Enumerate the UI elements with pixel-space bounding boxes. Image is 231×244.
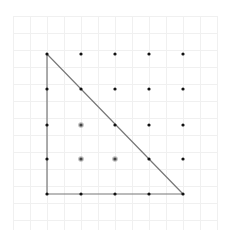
lattice-point xyxy=(147,157,150,160)
lattice-point xyxy=(45,87,48,90)
lattice-point xyxy=(181,157,184,160)
interior-lattice-point xyxy=(113,157,116,160)
lattice-point xyxy=(45,157,48,160)
lattice-point xyxy=(113,87,116,90)
interior-lattice-point xyxy=(79,157,82,160)
lattice-point xyxy=(181,52,184,55)
interior-lattice-point xyxy=(79,123,82,126)
lattice-point xyxy=(113,123,116,126)
lattice-point xyxy=(113,52,116,55)
lattice-point xyxy=(147,192,150,195)
background-grid xyxy=(13,16,218,230)
lattice-point xyxy=(113,192,116,195)
lattice-point xyxy=(181,123,184,126)
lattice-point xyxy=(79,52,82,55)
lattice-point xyxy=(79,192,82,195)
lattice-point xyxy=(147,123,150,126)
geoboard-diagram xyxy=(0,0,231,244)
lattice-point xyxy=(181,87,184,90)
lattice-point xyxy=(147,52,150,55)
lattice-point xyxy=(79,87,82,90)
lattice-point xyxy=(181,192,184,195)
lattice-point xyxy=(45,192,48,195)
lattice-point xyxy=(45,123,48,126)
lattice-point xyxy=(147,87,150,90)
lattice-point xyxy=(45,52,48,55)
